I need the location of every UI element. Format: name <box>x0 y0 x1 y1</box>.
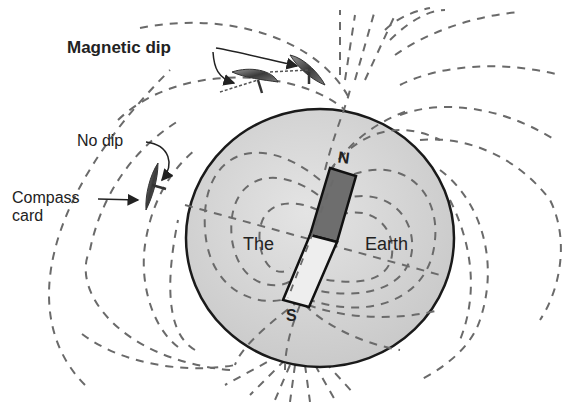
no-dip-label: No dip <box>77 133 123 149</box>
compass-card-label-line2: card <box>12 208 43 224</box>
the-label: The <box>243 235 274 253</box>
south-pole-label: S <box>286 308 297 324</box>
magnetic-dip-label: Magnetic dip <box>67 39 171 56</box>
magnetic-dip-diagram <box>0 0 573 402</box>
north-pole-label: N <box>337 149 351 166</box>
compass-card-arrow <box>98 199 138 200</box>
compass-card-label-line1: Compass <box>12 190 80 206</box>
earth-label: Earth <box>365 235 408 253</box>
magnetic-dip-arrow-1 <box>216 48 297 66</box>
